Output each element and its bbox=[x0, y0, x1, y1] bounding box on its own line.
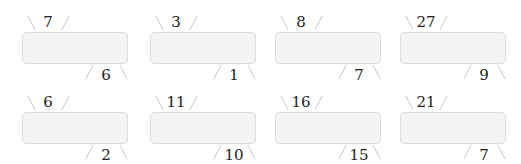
notch-line-right bbox=[119, 65, 127, 80]
top-number: 6 bbox=[34, 94, 62, 110]
bottom-number: 7 bbox=[470, 147, 498, 163]
card-box bbox=[22, 112, 128, 144]
top-number: 27 bbox=[412, 14, 440, 30]
card-box bbox=[22, 32, 128, 64]
notch-line-right bbox=[189, 16, 197, 31]
bottom-number: 9 bbox=[470, 67, 498, 83]
top-number: 16 bbox=[287, 94, 315, 110]
notch-line-right bbox=[314, 16, 322, 31]
notch-line-right bbox=[247, 145, 255, 160]
top-number: 3 bbox=[162, 14, 190, 30]
card-box bbox=[150, 32, 256, 64]
card-1: 7 6 bbox=[22, 4, 130, 84]
bottom-number: 15 bbox=[345, 147, 373, 163]
card-box bbox=[275, 112, 381, 144]
notch-line-right bbox=[372, 145, 380, 160]
top-number: 8 bbox=[287, 14, 315, 30]
notch-line-right bbox=[247, 65, 255, 80]
bottom-number: 6 bbox=[92, 67, 120, 83]
notch-line-right bbox=[314, 96, 322, 111]
bottom-number: 1 bbox=[220, 67, 248, 83]
card-4: 27 9 bbox=[400, 4, 508, 84]
card-7: 16 15 bbox=[275, 84, 383, 164]
top-number: 11 bbox=[162, 94, 190, 110]
card-6: 11 10 bbox=[150, 84, 258, 164]
card-box bbox=[400, 32, 506, 64]
notch-line-right bbox=[189, 96, 197, 111]
bottom-number: 7 bbox=[345, 67, 373, 83]
card-3: 8 7 bbox=[275, 4, 383, 84]
notch-line-right bbox=[119, 145, 127, 160]
notch-line-right bbox=[439, 96, 447, 111]
card-box bbox=[275, 32, 381, 64]
card-box bbox=[400, 112, 506, 144]
notch-line-right bbox=[61, 96, 69, 111]
top-number: 7 bbox=[34, 14, 62, 30]
notch-line-right bbox=[439, 16, 447, 31]
card-2: 3 1 bbox=[150, 4, 258, 84]
card-8: 21 7 bbox=[400, 84, 508, 164]
notch-line-right bbox=[497, 145, 505, 160]
card-box bbox=[150, 112, 256, 144]
top-number: 21 bbox=[412, 94, 440, 110]
notch-line-right bbox=[497, 65, 505, 80]
bottom-number: 2 bbox=[92, 147, 120, 163]
bottom-number: 10 bbox=[220, 147, 248, 163]
notch-line-right bbox=[61, 16, 69, 31]
notch-line-right bbox=[372, 65, 380, 80]
card-5: 6 2 bbox=[22, 84, 130, 164]
